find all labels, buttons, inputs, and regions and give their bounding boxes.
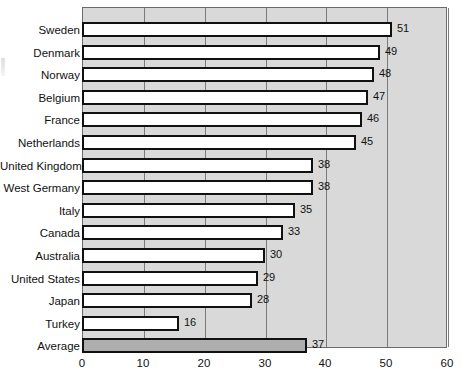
category-label-australia: Australia bbox=[0, 249, 80, 263]
bar-row: 47 bbox=[82, 87, 447, 110]
bar-denmark bbox=[82, 45, 380, 60]
bar-row: 38 bbox=[82, 155, 447, 178]
bar-row: 38 bbox=[82, 177, 447, 200]
x-tick-label-30: 30 bbox=[259, 357, 272, 369]
x-tick-label-0: 0 bbox=[79, 357, 85, 369]
category-label-belgium: Belgium bbox=[0, 91, 80, 105]
x-tick-label-60: 60 bbox=[441, 357, 454, 369]
bar-west-germany bbox=[82, 180, 313, 195]
bar-france bbox=[82, 112, 362, 127]
gridline-60 bbox=[448, 8, 449, 347]
category-axis-labels: SwedenDenmarkNorwayBelgiumFranceNetherla… bbox=[0, 7, 80, 348]
category-label-sweden: Sweden bbox=[0, 23, 80, 37]
category-label-norway: Norway bbox=[0, 68, 80, 82]
category-label-united-kingdom: United Kingdom bbox=[0, 159, 80, 173]
bar-belgium bbox=[82, 90, 368, 105]
bar-canada bbox=[82, 225, 283, 240]
bar-value-label: 46 bbox=[367, 111, 379, 126]
bar-row: 46 bbox=[82, 109, 447, 132]
bar-value-label: 49 bbox=[385, 44, 397, 59]
bar-value-label: 16 bbox=[184, 315, 196, 330]
bar-row: 33 bbox=[82, 222, 447, 245]
x-tick-label-20: 20 bbox=[198, 357, 211, 369]
bar-chart: SwedenDenmarkNorwayBelgiumFranceNetherla… bbox=[0, 0, 465, 382]
x-tick-label-10: 10 bbox=[137, 357, 150, 369]
bar-row: 30 bbox=[82, 245, 447, 268]
bar-value-label: 29 bbox=[263, 270, 275, 285]
bar-row: 28 bbox=[82, 290, 447, 313]
category-label-average: Average bbox=[0, 339, 80, 353]
bar-value-label: 45 bbox=[361, 134, 373, 149]
bar-row: 35 bbox=[82, 200, 447, 223]
category-label-netherlands: Netherlands bbox=[0, 136, 80, 150]
bar-row: 45 bbox=[82, 132, 447, 155]
bar-row: 29 bbox=[82, 268, 447, 291]
category-label-france: France bbox=[0, 113, 80, 127]
bar-value-label: 30 bbox=[270, 247, 282, 262]
x-tick-label-50: 50 bbox=[380, 357, 393, 369]
bar-united-states bbox=[82, 271, 258, 286]
category-label-turkey: Turkey bbox=[0, 317, 80, 331]
category-label-canada: Canada bbox=[0, 226, 80, 240]
category-label-west-germany: West Germany bbox=[0, 181, 80, 195]
x-tick-label-40: 40 bbox=[319, 357, 332, 369]
category-label-united-states: United States bbox=[0, 272, 80, 286]
x-axis: 0102030405060 bbox=[82, 349, 447, 375]
bar-row: 51 bbox=[82, 19, 447, 42]
bar-series: 514948474645383835333029281637 bbox=[82, 7, 447, 348]
bar-value-label: 35 bbox=[300, 202, 312, 217]
bar-value-label: 47 bbox=[373, 89, 385, 104]
bar-row: 49 bbox=[82, 42, 447, 65]
bar-value-label: 48 bbox=[379, 66, 391, 81]
bar-row: 48 bbox=[82, 64, 447, 87]
bar-united-kingdom bbox=[82, 158, 313, 173]
bar-netherlands bbox=[82, 135, 356, 150]
bar-japan bbox=[82, 293, 252, 308]
category-label-japan: Japan bbox=[0, 294, 80, 308]
bar-value-label: 28 bbox=[257, 292, 269, 307]
bar-value-label: 33 bbox=[288, 224, 300, 239]
category-label-denmark: Denmark bbox=[0, 46, 80, 60]
bar-value-label: 38 bbox=[318, 157, 330, 172]
bar-value-label: 38 bbox=[318, 179, 330, 194]
bar-italy bbox=[82, 203, 295, 218]
bar-value-label: 51 bbox=[397, 21, 409, 36]
bar-australia bbox=[82, 248, 265, 263]
bar-turkey bbox=[82, 316, 179, 331]
bar-sweden bbox=[82, 22, 392, 37]
category-label-italy: Italy bbox=[0, 204, 80, 218]
bar-row: 16 bbox=[82, 313, 447, 336]
bar-norway bbox=[82, 67, 374, 82]
